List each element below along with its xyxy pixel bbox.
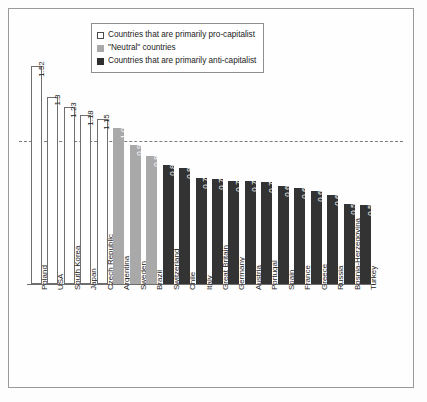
bar-value-label: 0.72	[234, 176, 243, 192]
legend-label-pro: Countries that are primarily pro-capital…	[108, 30, 255, 40]
bar-value-label: 0.72	[250, 176, 259, 192]
legend-item-pro: Countries that are primarily pro-capital…	[97, 29, 256, 41]
legend-label-anti: Countries that are primarily anti-capita…	[108, 56, 256, 66]
bar-value-label: 0.89	[152, 151, 161, 167]
bar-value-label: 0.55	[366, 200, 375, 216]
legend-item-anti: Countries that are primarily anti-capita…	[97, 55, 256, 67]
legend-swatch-gray-icon	[97, 45, 104, 52]
legend-item-neutral: "Neutral" countries	[97, 42, 256, 54]
bar-brazil: 0.89	[146, 156, 157, 284]
legend-swatch-white-icon	[97, 32, 104, 39]
reference-line-1.0	[19, 141, 403, 142]
bar-value-label: 0.97	[135, 140, 144, 156]
bar-value-label: 1.3	[53, 95, 62, 106]
bar-value-label: 0.56	[349, 199, 358, 215]
bar-value-label: 0.73	[217, 174, 226, 190]
bar-value-label: 0.68	[283, 182, 292, 198]
bar-value-label: 0.81	[185, 163, 194, 179]
bar-italy: 0.74	[196, 178, 207, 284]
bar-value-label: 0.83	[168, 160, 177, 176]
bar-poland: 1.52	[31, 66, 42, 284]
bar-value-label: 1.09	[119, 123, 128, 139]
bar-value-label: 1.23	[69, 103, 78, 119]
bar-value-label: 1.18	[86, 110, 95, 126]
chart-frame: 1.52Poland1.3USA1.23South Korea1.18Japan…	[8, 8, 414, 388]
chart-legend: Countries that are primarily pro-capital…	[91, 23, 264, 73]
bar-japan: 1.18	[80, 115, 91, 284]
bar-value-label: 1.52	[37, 61, 46, 77]
bar-value-label: 0.74	[201, 173, 210, 189]
bar-value-label: 0.71	[267, 177, 276, 193]
bar-chile: 0.81	[179, 168, 190, 284]
chart-figure: 1.52Poland1.3USA1.23South Korea1.18Japan…	[0, 0, 427, 402]
bar-value-label: 0.65	[316, 186, 325, 202]
bar-value-label: 0.67	[300, 183, 309, 199]
legend-swatch-dark-icon	[97, 58, 104, 65]
bar-value-label: 1.15	[102, 114, 111, 130]
bar-usa: 1.3	[47, 97, 58, 284]
bar-value-label: 0.62	[333, 190, 342, 206]
legend-label-neutral: "Neutral" countries	[108, 43, 176, 53]
category-label-turkey: Turkey	[369, 266, 378, 290]
